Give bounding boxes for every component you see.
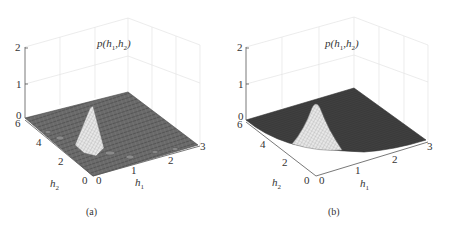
caption-b: (b) [328,206,340,217]
h2-axis-label: h2 [50,178,59,194]
surface-plot-b [224,0,449,225]
z-tick-1: 1 [16,79,22,90]
h1-axis-label: h1 [135,177,144,193]
h2-tick-6: 6 [15,118,21,129]
h2-tick-4: 4 [260,139,266,150]
h2-tick-6: 6 [237,119,243,130]
surface-plot-a [0,0,225,225]
h2-tick-0: 0 [304,175,310,186]
h1-tick-0: 0 [96,175,102,186]
h1-tick-3: 3 [427,141,433,152]
h1-tick-0: 0 [319,175,325,186]
h2-tick-2: 2 [282,157,288,168]
h1-tick-2: 2 [392,154,398,165]
h2-tick-2: 2 [58,156,64,167]
z-tick-2: 2 [15,42,21,53]
z-tick-2: 2 [237,42,243,53]
caption-a: (a) [86,206,97,217]
z-axis-label: p(h1,h2) [325,38,359,54]
h2-tick-0: 0 [82,175,88,186]
h1-tick-1: 1 [131,165,137,176]
h1-axis-label: h1 [360,178,369,194]
z-tick-1: 1 [238,79,244,90]
panel-a: p(h1,h2) 2 1 0 6 4 2 0 0 1 2 3 h2 h1 (a) [0,0,225,225]
h1-tick-2: 2 [168,155,174,166]
h2-axis-label: h2 [272,177,281,193]
h1-tick-1: 1 [355,165,361,176]
h1-tick-3: 3 [200,141,206,152]
panel-b: p(h1,h2) 2 1 0 6 4 2 0 0 1 2 3 h2 h1 (b) [224,0,449,225]
h2-tick-4: 4 [36,137,42,148]
z-axis-label: p(h1,h2) [97,38,131,54]
